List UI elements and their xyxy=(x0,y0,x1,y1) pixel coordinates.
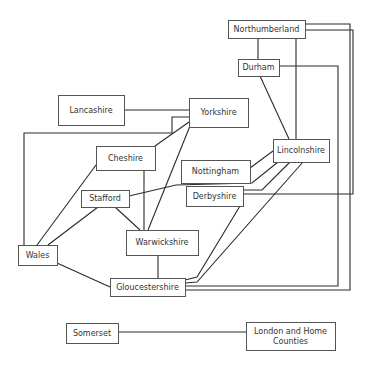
node-lancashire: Lancashire xyxy=(59,96,125,126)
node-label: Stafford xyxy=(89,194,121,203)
node-label: Cheshire xyxy=(108,154,143,163)
node-durham: Durham xyxy=(239,60,280,77)
node-cheshire: Cheshire xyxy=(97,147,156,171)
node-label: Nottingham xyxy=(192,167,239,176)
node-label: Gloucestershire xyxy=(116,283,179,292)
node-label: Yorkshire xyxy=(199,108,236,117)
node-london: London and HomeCounties xyxy=(247,323,336,351)
node-label: Somerset xyxy=(73,329,111,338)
node-label: Derbyshire xyxy=(193,192,237,201)
county-network-diagram: NorthumberlandDurhamLancashireYorkshireC… xyxy=(0,0,369,368)
edge-wales-gloucestershire xyxy=(57,263,110,287)
node-label: Northumberland xyxy=(234,25,300,34)
node-label: Lincolnshire xyxy=(277,146,325,155)
edge-yorkshire-wales xyxy=(24,117,189,245)
node-label: London and Home xyxy=(254,327,327,336)
edge-durham-lincolnshire xyxy=(260,76,289,139)
edge-stafford-warwickshire xyxy=(115,207,140,230)
node-nottingham: Nottingham xyxy=(182,161,251,184)
node-northumberland: Northumberland xyxy=(229,21,306,39)
edge-nottingham-lincolnshire xyxy=(250,151,273,168)
node-label: Counties xyxy=(273,337,308,346)
node-wales: Wales xyxy=(19,246,58,266)
node-label: Durham xyxy=(242,63,274,72)
node-gloucestershire: Gloucestershire xyxy=(111,279,186,297)
node-yorkshire: Yorkshire xyxy=(190,99,249,128)
edge-stafford-wales xyxy=(48,207,98,245)
node-lincolnshire: Lincolnshire xyxy=(274,140,330,163)
node-derbyshire: Derbyshire xyxy=(187,187,244,207)
node-warwickshire: Warwickshire xyxy=(127,231,199,256)
node-stafford: Stafford xyxy=(82,191,130,208)
node-label: Wales xyxy=(26,251,50,260)
node-label: Warwickshire xyxy=(136,238,189,247)
node-somerset: Somerset xyxy=(67,324,119,344)
edge-northumberland-derbyshire xyxy=(243,30,353,194)
node-label: Lancashire xyxy=(69,106,112,115)
